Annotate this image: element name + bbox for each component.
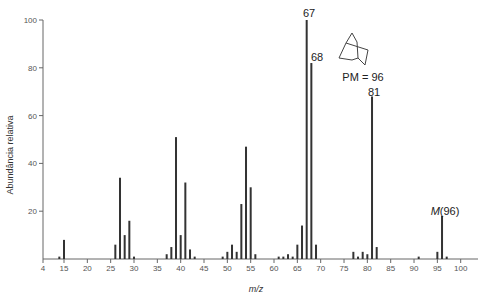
- spectrum-peak: [119, 178, 121, 259]
- x-tick-label: 20: [83, 264, 92, 273]
- molecular-ion-label: M(96): [431, 205, 460, 217]
- x-tick-label: 30: [130, 264, 139, 273]
- y-tick-label: 60: [28, 112, 37, 121]
- peak-label-81: 81: [368, 86, 380, 98]
- spectrum-peak: [236, 252, 238, 259]
- norbornane-structure-icon: [339, 33, 368, 65]
- spectrum-peak: [306, 20, 308, 259]
- spectrum-peak: [231, 245, 233, 259]
- bars: [58, 20, 447, 259]
- spectrum-peak: [189, 249, 191, 259]
- y-tick-label: 40: [28, 159, 37, 168]
- x-tick-label: 4: [41, 264, 46, 273]
- y-tick-label: 20: [28, 207, 37, 216]
- spectrum-peak: [222, 257, 224, 259]
- y-tick-label: 100: [24, 16, 38, 25]
- x-tick-label: 25: [106, 264, 115, 273]
- spectrum-peak: [58, 257, 60, 259]
- spectrum-peak: [446, 257, 448, 259]
- y-axis-title: Abundância relativa: [5, 115, 15, 194]
- spectrum-peak: [180, 235, 182, 259]
- x-tick-label: 55: [246, 264, 255, 273]
- x-axis-title: m/z: [249, 284, 264, 294]
- x-tick-label: 95: [433, 264, 442, 273]
- spectrum-peak: [376, 247, 378, 259]
- x-tick-label: 75: [340, 264, 349, 273]
- spectrum-peak: [133, 257, 135, 259]
- spectrum-peak: [250, 187, 252, 259]
- spectrum-peak: [292, 257, 294, 259]
- spectrum-peak: [194, 257, 196, 259]
- spectrum-peak: [436, 252, 438, 259]
- spectrum-peak: [296, 245, 298, 259]
- x-axis: 41520253035404550556065707580859095100: [41, 259, 478, 273]
- spectrum-peak: [240, 204, 242, 259]
- spectrum-peak: [362, 252, 364, 259]
- spectrum-peak: [114, 245, 116, 259]
- spectrum-peak: [226, 252, 228, 259]
- x-tick-label: 45: [200, 264, 209, 273]
- spectrum-peak: [124, 235, 126, 259]
- spectrum-peak: [352, 252, 354, 259]
- spectrum-peak: [175, 137, 177, 259]
- mass-spectrum-chart: 20406080100 4152025303540455055606570758…: [0, 0, 484, 302]
- spectrum-peak: [282, 257, 284, 259]
- spectrum-peak: [301, 226, 303, 259]
- spectrum-peak: [310, 63, 312, 259]
- x-tick-label: 90: [410, 264, 419, 273]
- x-tick-label: 100: [454, 264, 468, 273]
- spectrum-peak: [254, 254, 256, 259]
- x-tick-label: 70: [316, 264, 325, 273]
- spectrum-peak: [371, 96, 373, 259]
- spectrum-peak: [170, 247, 172, 259]
- spectrum-peak: [128, 221, 130, 259]
- x-tick-label: 85: [386, 264, 395, 273]
- spectrum-peak: [245, 147, 247, 259]
- x-tick-label: 60: [270, 264, 279, 273]
- molecular-weight-label: PM = 96: [342, 71, 383, 83]
- x-tick-label: 40: [176, 264, 185, 273]
- spectrum-peak: [441, 216, 443, 259]
- spectrum-peak: [366, 254, 368, 259]
- y-axis: 20406080100: [24, 16, 43, 259]
- spectrum-peak: [418, 257, 420, 259]
- x-tick-label: 65: [293, 264, 302, 273]
- spectrum-peak: [315, 245, 317, 259]
- peak-label-67: 67: [303, 7, 315, 19]
- spectrum-peak: [166, 254, 168, 259]
- spectrum-peak: [287, 254, 289, 259]
- x-tick-label: 35: [153, 264, 162, 273]
- x-tick-label: 50: [223, 264, 232, 273]
- spectrum-peak: [357, 257, 359, 259]
- x-tick-label: 80: [363, 264, 372, 273]
- spectrum-peak: [63, 240, 65, 259]
- x-tick-label: 15: [60, 264, 69, 273]
- spectrum-peak: [184, 183, 186, 259]
- y-tick-label: 80: [28, 64, 37, 73]
- spectrum-peak: [278, 257, 280, 259]
- peak-label-68: 68: [311, 51, 323, 63]
